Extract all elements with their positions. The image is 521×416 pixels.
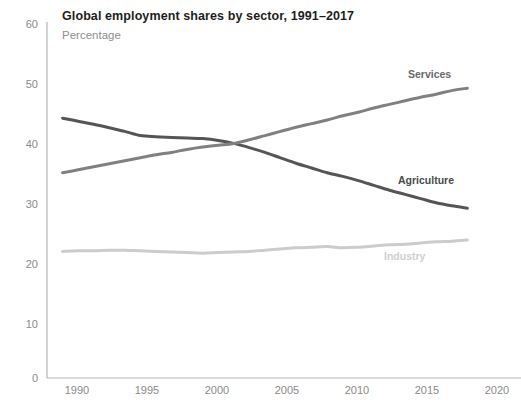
series-label-services: Services: [408, 68, 451, 80]
x-axis-tick-label: 2020: [474, 384, 520, 396]
y-axis-tick-label: 60: [8, 18, 38, 30]
series-label-agriculture: Agriculture: [398, 174, 454, 186]
chart-container: Global employment shares by sector, 1991…: [0, 0, 521, 416]
x-axis-tick-label: 2000: [194, 384, 240, 396]
x-axis-tick-label: 2015: [404, 384, 450, 396]
y-axis-tick-label: 0: [8, 372, 38, 384]
y-axis-tick-label: 50: [8, 78, 38, 90]
x-axis-tick-label: 2010: [334, 384, 380, 396]
y-axis-tick-label: 10: [8, 318, 38, 330]
series-path-group: [63, 88, 468, 253]
y-axis-tick-label: 30: [8, 198, 38, 210]
x-axis-tick-label: 1995: [124, 384, 170, 396]
y-axis-tick-label: 20: [8, 258, 38, 270]
y-axis-tick-label: 40: [8, 138, 38, 150]
x-axis-tick-label: 1990: [54, 384, 100, 396]
series-label-industry: Industry: [384, 250, 425, 262]
series-line-agriculture: [63, 118, 468, 208]
x-axis-tick-label: 2005: [264, 384, 310, 396]
chart-plot-area: [0, 0, 521, 416]
